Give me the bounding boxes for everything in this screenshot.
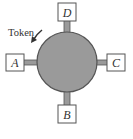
node-label-c: C: [112, 56, 121, 70]
node-label-a: A: [10, 56, 19, 70]
ring: [37, 32, 97, 92]
connector-c: [96, 60, 108, 65]
node-label-d: D: [62, 6, 72, 20]
node-c: C: [107, 54, 125, 71]
node-b: B: [58, 105, 76, 123]
node-d: D: [58, 3, 76, 21]
node-label-b: B: [63, 108, 71, 122]
node-a: A: [6, 54, 24, 71]
connector-a: [23, 60, 38, 65]
token-label: Token: [8, 27, 35, 38]
token-ring-diagram: D A C B Token: [0, 0, 133, 139]
